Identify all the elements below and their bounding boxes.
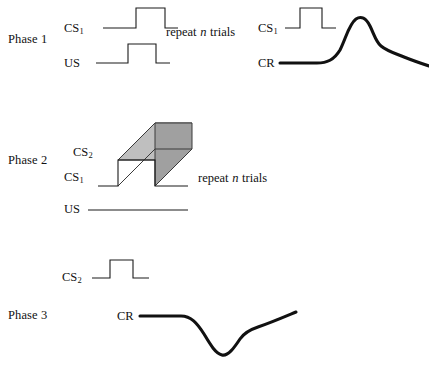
figure-canvas: Phase 1 CS1 US repeat n trials CS1 CR Ph… xyxy=(0,0,429,373)
phase-3-cr-curve xyxy=(140,312,296,355)
phase-3-cs2-pulse xyxy=(92,260,149,278)
phase-3-traces-svg xyxy=(0,0,429,373)
